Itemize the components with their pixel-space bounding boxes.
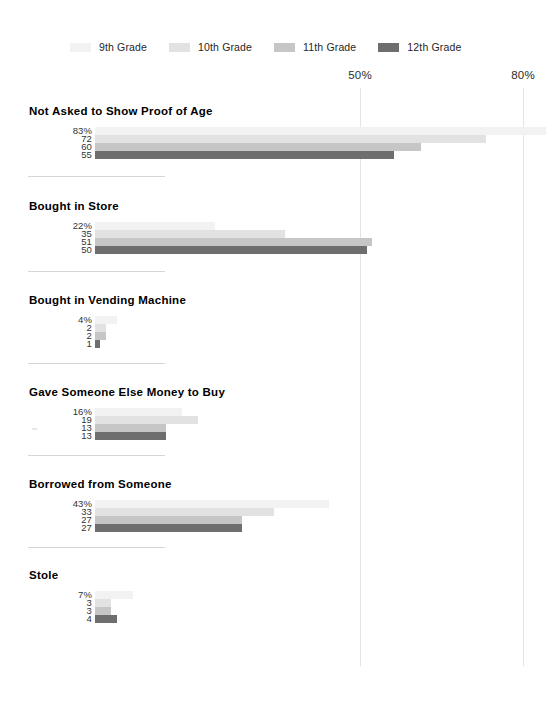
bar-group: 7%334 (0, 591, 560, 623)
legend-item: 9th Grade (70, 41, 147, 53)
bar (95, 222, 215, 230)
bar (95, 432, 166, 440)
legend-item: 11th Grade (274, 41, 356, 53)
legend-item-label: 10th Grade (198, 41, 252, 53)
section-title: Gave Someone Else Money to Buy (29, 386, 225, 398)
section-title: Bought in Vending Machine (29, 294, 186, 306)
legend-swatch-icon (274, 43, 295, 52)
bar (95, 246, 367, 254)
bar-value-label: 1 (87, 338, 92, 349)
legend-item-label: 11th Grade (303, 41, 356, 53)
bar-row: 3 (0, 599, 560, 607)
legend-swatch-icon (70, 43, 91, 52)
gridline (360, 88, 361, 666)
section-divider (28, 271, 165, 272)
bar (95, 135, 486, 143)
bar (95, 615, 117, 623)
gridline (523, 88, 524, 666)
bar-value-label: 50 (81, 244, 92, 255)
bar-group: 43%332727 (0, 500, 560, 532)
bar (95, 230, 285, 238)
bar (95, 424, 166, 432)
legend-item-label: 12th Grade (407, 41, 461, 53)
bar (95, 238, 372, 246)
bar-group: 16%191313 (0, 408, 560, 440)
bar (95, 332, 106, 340)
section-title: Not Asked to Show Proof of Age (29, 105, 213, 117)
bar (95, 127, 546, 135)
bar-row: 2 (0, 332, 560, 340)
section-divider (28, 176, 165, 177)
bar-value-label: 4 (87, 613, 92, 624)
bar (95, 607, 111, 615)
bar-row: 55 (0, 151, 560, 159)
section-divider (28, 455, 165, 456)
bar-value-label: 13 (81, 430, 92, 441)
bar (95, 516, 242, 524)
legend-item: 12th Grade (378, 41, 461, 53)
bar-row: 50 (0, 246, 560, 254)
legend-swatch-icon (169, 43, 190, 52)
scan-artifact-speck (32, 428, 37, 430)
section-title: Borrowed from Someone (29, 478, 172, 490)
section-divider (28, 363, 165, 364)
bar-row: 13 (0, 432, 560, 440)
bar (95, 324, 106, 332)
bar-group: 83%726055 (0, 127, 560, 159)
legend-item: 10th Grade (169, 41, 252, 53)
bar-row: 27 (0, 524, 560, 532)
bar-row: 3 (0, 607, 560, 615)
bar (95, 340, 100, 348)
section-divider (28, 547, 165, 548)
gridline-label: 50% (348, 69, 372, 81)
gridline-label: 80% (511, 69, 535, 81)
bar-row: 1 (0, 340, 560, 348)
section-title: Stole (29, 569, 58, 581)
section-title: Bought in Store (29, 200, 119, 212)
bar-row: 4 (0, 615, 560, 623)
bar-value-label: 55 (81, 149, 92, 160)
legend-item-label: 9th Grade (99, 41, 147, 53)
bar-row: 2 (0, 324, 560, 332)
bar (95, 508, 274, 516)
bar-group: 22%355150 (0, 222, 560, 254)
bar (95, 524, 242, 532)
bar-row: 4% (0, 316, 560, 324)
bar-group: 4%221 (0, 316, 560, 348)
bar (95, 500, 329, 508)
chart-legend: 9th Grade10th Grade11th Grade12th Grade (70, 41, 483, 53)
bar (95, 599, 111, 607)
bar (95, 316, 117, 324)
bar (95, 416, 198, 424)
bar-row: 7% (0, 591, 560, 599)
bar (95, 408, 182, 416)
bar (95, 151, 394, 159)
legend-swatch-icon (378, 43, 399, 52)
bar (95, 591, 133, 599)
bar (95, 143, 421, 151)
bar-value-label: 27 (81, 522, 92, 533)
